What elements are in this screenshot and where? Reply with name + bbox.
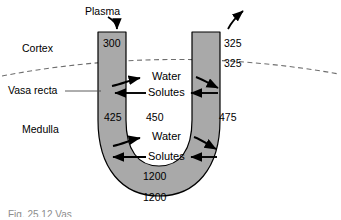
- vasa-recta-label: Vasa recta: [8, 85, 57, 96]
- figure-caption-text: Fig. 25.12 Vas: [8, 210, 128, 217]
- medulla-label: Medulla: [22, 124, 59, 135]
- plasma-label: Plasma: [85, 6, 120, 17]
- osmolality-descending-mid: 425: [104, 112, 122, 123]
- osmolality-bend-deep: 1200: [143, 192, 166, 203]
- water-label-lower: Water: [152, 131, 181, 142]
- osmolality-descending-top: 300: [103, 38, 121, 49]
- plasma-outflow-arrow: [228, 11, 243, 29]
- solutes-label-lower: Solutes: [148, 151, 185, 162]
- osmolality-ascending-top: 325: [224, 38, 242, 49]
- osmolality-ascending-mid: 475: [219, 112, 237, 123]
- diagram-canvas: [0, 0, 341, 220]
- figure-caption: Fig. 25.12 Vas: [8, 210, 128, 217]
- plasma-inflow-arrow: [108, 17, 117, 29]
- osmolality-ascending-cortex-medulla: 325: [224, 58, 242, 69]
- solutes-label-upper: Solutes: [148, 87, 185, 98]
- osmolality-interstitium-deep: 1200: [143, 171, 166, 182]
- cortex-label: Cortex: [22, 43, 53, 54]
- vasa-recta-figure: Plasma Cortex Vasa recta Medulla 300 325…: [0, 0, 341, 220]
- osmolality-interstitium-mid: 450: [146, 112, 164, 123]
- water-label-upper: Water: [152, 71, 181, 82]
